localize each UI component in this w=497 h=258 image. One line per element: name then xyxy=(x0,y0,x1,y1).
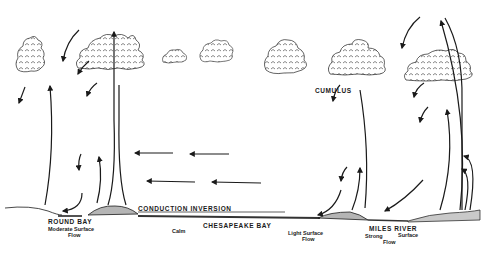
label-light-flow-2: Flow xyxy=(302,237,315,243)
arrow-right-milesriver-in xyxy=(385,180,423,211)
arrow-mid-down-short xyxy=(79,154,81,170)
label-chesapeake-bay: CHESAPEAKE BAY xyxy=(203,223,271,230)
diagram-canvas: CUMULUS CONDUCTION INVERSION ROUND BAY M… xyxy=(0,0,497,258)
arrow-lightflow-in xyxy=(318,190,341,215)
land-hill-left xyxy=(88,206,138,215)
arrow-left-up-tall xyxy=(45,86,52,205)
land-left xyxy=(5,207,62,215)
arrow-cumulus-up-tall xyxy=(360,90,367,208)
label-strong-flow-3: Flow xyxy=(383,240,396,246)
flow-arrows xyxy=(19,17,473,215)
miles-river-water xyxy=(368,220,408,221)
label-moderate-flow-2: Flow xyxy=(68,233,81,239)
cloud-right-large xyxy=(404,49,472,81)
arrow-right-loop-1 xyxy=(464,156,473,210)
label-strong-flow-2: Surface xyxy=(398,233,418,239)
arrow-left-down-small xyxy=(19,87,25,103)
chesapeake-water xyxy=(138,216,320,218)
tower-right-line xyxy=(119,85,126,205)
arrow-roundbay-in xyxy=(63,193,82,211)
label-round-bay: ROUND BAY xyxy=(48,219,92,226)
arrow-up-small-1 xyxy=(97,157,101,203)
cloud-mid-medium xyxy=(264,40,306,74)
land-right xyxy=(408,210,480,222)
arrow-cumulus-up-short xyxy=(352,168,360,210)
land-hill-mid xyxy=(318,212,368,220)
arrow-left-cloud-down xyxy=(63,30,79,61)
cloud-cumulus xyxy=(328,40,385,76)
label-conduction-inversion: CONDUCTION INVERSION xyxy=(138,206,232,213)
arrow-right-down-mid xyxy=(414,83,424,97)
h-arrow-3 xyxy=(147,181,195,182)
label-strong-flow-1: Strong xyxy=(365,234,383,240)
cloud-mid-small xyxy=(200,40,233,62)
cloud-left-large xyxy=(76,34,144,69)
cloud-left-small-tower xyxy=(16,36,45,71)
arrow-left-inner-down2 xyxy=(87,83,97,96)
arrow-cumulus-down2 xyxy=(341,167,347,181)
label-cumulus: CUMULUS xyxy=(315,88,352,95)
cloud-mid-tiny xyxy=(163,49,187,63)
h-arrow-4 xyxy=(212,182,261,183)
label-calm: Calm xyxy=(172,229,185,235)
arrow-right-up-long xyxy=(440,110,450,210)
arrow-right-top-down xyxy=(402,17,420,48)
arrow-right-down-mid2 xyxy=(420,107,428,122)
